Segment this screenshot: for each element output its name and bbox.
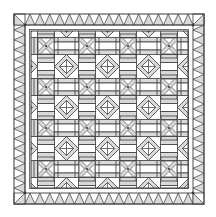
border-triangle-top <box>173 14 183 25</box>
quilt-field <box>14 14 203 202</box>
border-triangle-left <box>14 65 25 75</box>
border-triangle-right <box>193 124 204 134</box>
border-triangle-left <box>14 163 25 173</box>
border-triangle-bottom <box>35 193 45 204</box>
x-center <box>86 45 88 47</box>
border-triangle-top <box>144 14 154 25</box>
border-triangle-top <box>25 14 35 25</box>
border-triangle-right <box>193 25 204 35</box>
x-center <box>86 168 88 170</box>
border-triangle-left <box>14 114 25 124</box>
border-triangle-bottom <box>134 193 144 204</box>
x-center <box>127 168 129 170</box>
x-center <box>168 86 170 88</box>
border-triangle-right <box>193 144 204 154</box>
border-triangle-top <box>134 14 144 25</box>
border-triangle-top <box>104 14 114 25</box>
border-triangle-bottom <box>74 193 84 204</box>
border-triangle-bottom <box>104 193 114 204</box>
border-triangle-bottom <box>84 193 94 204</box>
x-center <box>127 86 129 88</box>
border-triangle-bottom <box>45 193 55 204</box>
x-center <box>45 127 47 129</box>
border-triangle-right <box>193 104 204 114</box>
border-triangle-right <box>193 45 204 55</box>
x-center <box>168 127 170 129</box>
border-triangle-top <box>163 14 173 25</box>
border-triangle-bottom <box>55 193 65 204</box>
x-center <box>168 168 170 170</box>
border-triangle-bottom <box>114 193 124 204</box>
border-triangle-left <box>14 183 25 193</box>
border-triangle-bottom <box>183 193 193 204</box>
border-triangle-top <box>84 14 94 25</box>
border-triangle-left <box>14 134 25 144</box>
border-triangle-top <box>45 14 55 25</box>
border-triangle-top <box>55 14 65 25</box>
border-triangle-right <box>193 65 204 75</box>
border-triangle-top <box>35 14 45 25</box>
x-center <box>45 86 47 88</box>
x-center <box>127 127 129 129</box>
border-triangle-left <box>14 104 25 114</box>
border-triangle-left <box>14 45 25 55</box>
border-triangle-top <box>124 14 134 25</box>
x-center <box>45 45 47 47</box>
border-triangle-top <box>183 14 193 25</box>
border-triangle-left <box>14 55 25 65</box>
border-triangle-left <box>14 144 25 154</box>
border-triangle-right <box>193 94 204 104</box>
field-content <box>14 14 203 202</box>
border-triangle-right <box>193 35 204 45</box>
x-center <box>168 45 170 47</box>
x-center <box>45 168 47 170</box>
border-triangle-left <box>14 153 25 163</box>
border-triangle-right <box>193 84 204 94</box>
border-triangle-left <box>14 84 25 94</box>
border-triangle-bottom <box>94 193 104 204</box>
border-triangle-right <box>193 134 204 144</box>
border-triangle-top <box>74 14 84 25</box>
quilt-svg <box>0 0 216 217</box>
x-center <box>86 86 88 88</box>
border-triangle-right <box>193 55 204 65</box>
border-triangle-bottom <box>173 193 183 204</box>
border-triangle-left <box>14 25 25 35</box>
border-triangle-left <box>14 35 25 45</box>
x-center <box>127 45 129 47</box>
border-triangle-bottom <box>144 193 154 204</box>
border-triangle-bottom <box>153 193 163 204</box>
quilt-diagram: Quilt pattern <box>0 0 216 217</box>
border-triangle-left <box>14 94 25 104</box>
border-triangle-top <box>114 14 124 25</box>
border-triangle-left <box>14 124 25 134</box>
border-triangle-left <box>14 173 25 183</box>
border-triangle-bottom <box>65 193 75 204</box>
border-triangle-right <box>193 114 204 124</box>
border-triangle-top <box>153 14 163 25</box>
x-center <box>86 127 88 129</box>
border-triangle-right <box>193 163 204 173</box>
border-triangle-right <box>193 74 204 84</box>
border-triangle-bottom <box>25 193 35 204</box>
border-triangle-bottom <box>124 193 134 204</box>
border-triangle-left <box>14 74 25 84</box>
border-triangle-top <box>94 14 104 25</box>
border-triangle-right <box>193 173 204 183</box>
border-triangle-right <box>193 153 204 163</box>
border-triangle-top <box>65 14 75 25</box>
border-triangle-bottom <box>163 193 173 204</box>
border-triangle-right <box>193 183 204 193</box>
